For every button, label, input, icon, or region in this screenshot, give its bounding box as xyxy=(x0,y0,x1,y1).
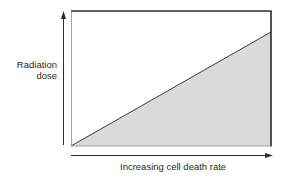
diagram-canvas xyxy=(0,0,283,184)
y-axis-label-line1: Radiation xyxy=(17,59,57,70)
y-axis-label-line2: dose xyxy=(17,70,57,81)
y-axis-label: Radiation dose xyxy=(17,59,57,81)
x-axis-arrowhead-icon xyxy=(265,153,273,158)
y-axis-arrowhead-icon xyxy=(61,11,66,19)
x-axis-label: Increasing cell death rate xyxy=(120,161,226,172)
